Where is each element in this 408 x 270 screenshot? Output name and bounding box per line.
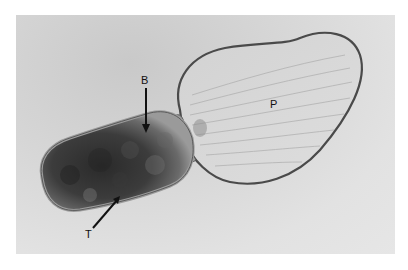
micrograph-svg: [16, 15, 395, 254]
dark-body: [41, 112, 193, 211]
arrow-b: [142, 88, 150, 133]
micrograph-frame: B T P: [16, 15, 395, 254]
label-p: P: [270, 98, 277, 110]
label-t: T: [85, 228, 92, 240]
label-b: B: [141, 74, 148, 86]
